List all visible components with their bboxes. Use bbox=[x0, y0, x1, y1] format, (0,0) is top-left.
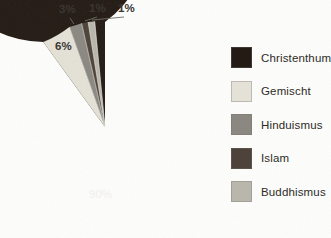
slice-value-hinduismus: 3% bbox=[59, 3, 76, 15]
chart-legend: Christenthum Gemischt Hinduismus Islam B… bbox=[231, 47, 331, 215]
pie-chart-figure: 90% 6% 3% 1% 1% Christenthum Gemischt Hi… bbox=[0, 0, 331, 238]
legend-swatch-islam bbox=[231, 148, 252, 169]
slice-value-gemischt: 6% bbox=[55, 40, 72, 52]
slice-value-islam: 1% bbox=[89, 2, 106, 14]
legend-item-hinduismus: Hinduismus bbox=[231, 114, 331, 135]
legend-label-christenthum: Christenthum bbox=[261, 52, 331, 64]
legend-label-islam: Islam bbox=[261, 152, 289, 164]
legend-item-buddhismus: Buddhismus bbox=[231, 181, 331, 202]
legend-label-gemischt: Gemischt bbox=[261, 85, 311, 97]
legend-label-buddhismus: Buddhismus bbox=[261, 186, 326, 198]
legend-swatch-buddhismus bbox=[231, 181, 252, 202]
legend-label-hinduismus: Hinduismus bbox=[261, 119, 323, 131]
legend-item-islam: Islam bbox=[231, 148, 331, 169]
legend-swatch-hinduismus bbox=[231, 114, 252, 135]
slice-value-christenthum: 90% bbox=[89, 188, 112, 200]
slice-value-buddhismus: 1% bbox=[118, 2, 135, 14]
legend-item-christenthum: Christenthum bbox=[231, 47, 331, 68]
legend-item-gemischt: Gemischt bbox=[231, 81, 331, 102]
legend-swatch-christenthum bbox=[231, 47, 252, 68]
legend-swatch-gemischt bbox=[231, 81, 252, 102]
